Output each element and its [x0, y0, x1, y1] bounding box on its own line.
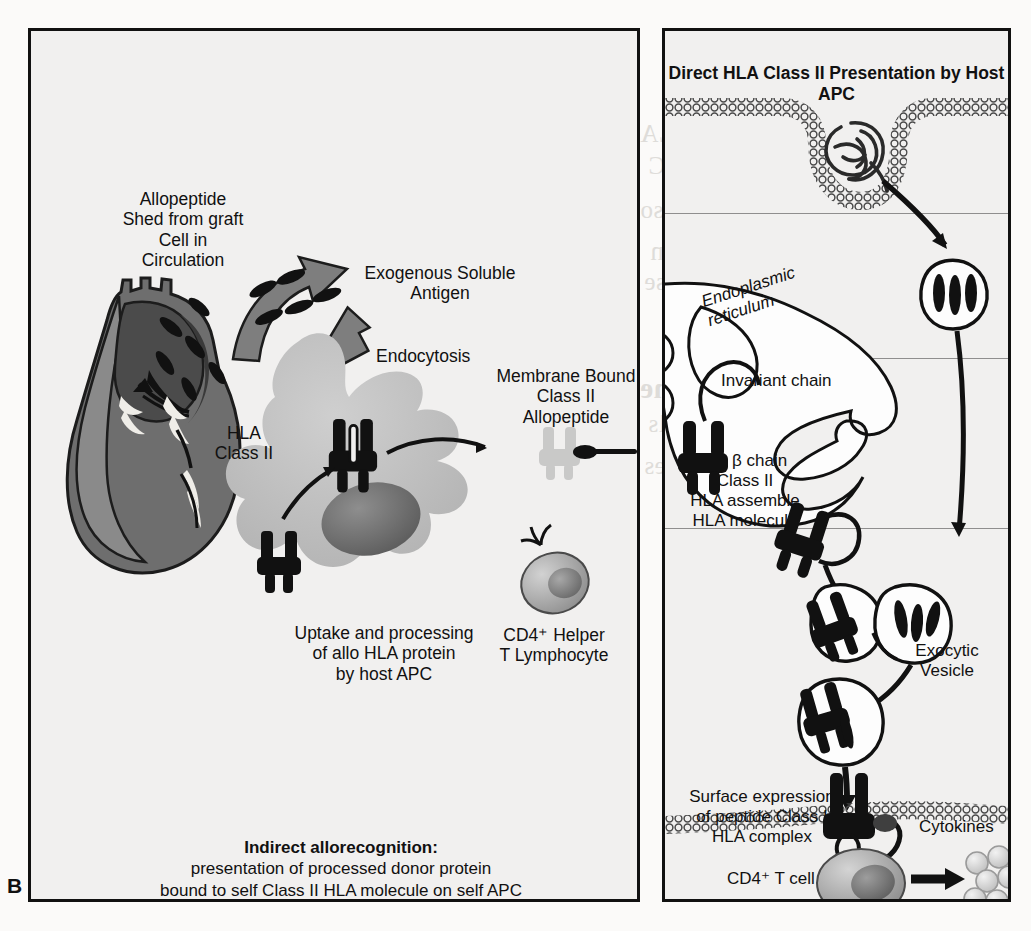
membrane-bound-class-ii-complex [539, 421, 649, 483]
panel-letter-b: B [7, 874, 22, 898]
endosome-vesicle [921, 260, 987, 329]
cytokine-cluster [964, 846, 1008, 899]
cd4-t-lymphocyte [511, 517, 597, 627]
exocytic-vesicle-label: Exocytic Vesicle [893, 641, 1001, 681]
right-panel-title: Direct HLA Class II Presentation by Host… [665, 63, 1008, 105]
exogenous-antigen-label: Exogenous Soluble Antigen [335, 263, 545, 304]
figure-root: immunity response. HLA complexes althoug… [0, 0, 1031, 931]
uptake-processing-label: Uptake and processing of allo HLA protei… [269, 623, 499, 684]
exocytic-vesicle [794, 679, 883, 765]
hla-class-ii-label: HLA Class II [206, 423, 282, 464]
caption-line-2: bound to self Class II HLA molecule on s… [121, 880, 561, 901]
indirect-allorecognition-caption: Indirect allorecognition: presentation o… [121, 837, 561, 901]
caption-title: Indirect allorecognition: [121, 837, 561, 858]
direct-presentation-panel: Direct HLA Class II Presentation by Host… [662, 28, 1011, 902]
cytokines-label: Cytokines [919, 817, 994, 837]
alpha-beta-chain-label: α + β chain Class II HLA assemble HLA mo… [679, 451, 811, 531]
cd4-helper-label: CD4⁺ Helper T Lymphocyte [479, 625, 629, 666]
cd4-t-cell-label: CD4⁺ T cell [727, 869, 815, 889]
caption-line-1: presentation of processed donor protein [121, 858, 561, 879]
allopeptide-shed-label: Allopeptide Shed from graft Cell in Circ… [88, 189, 278, 270]
plasma-membrane-bilayer [665, 107, 1008, 201]
indirect-allorecognition-panel: Allopeptide Shed from graft Cell in Circ… [28, 28, 640, 902]
invariant-chain-label: Invariant chain [721, 371, 832, 391]
surface-expression-label: Surface expression of peptide Class I HL… [673, 787, 851, 847]
internalization-arrow [883, 181, 945, 245]
endosome-transport-arrow [957, 331, 963, 531]
endocytosis-label: Endocytosis [376, 346, 470, 366]
membrane-bound-label: Membrane Bound Class II Allopeptide [471, 366, 661, 427]
